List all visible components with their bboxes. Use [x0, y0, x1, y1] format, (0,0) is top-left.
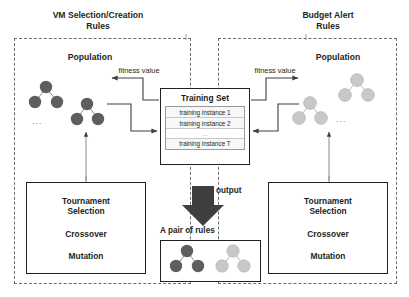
arrow-left-population-to-training [107, 104, 157, 131]
population-tree-left-2 [71, 98, 104, 125]
pair-rule-tree-light [216, 245, 250, 272]
population-tree-right-1 [339, 74, 375, 102]
arrow-right-training-to-fitness [251, 78, 298, 100]
arrow-right-population-to-training [253, 104, 299, 131]
population-tree-left-1 [29, 81, 63, 108]
output-block-arrow-icon [182, 186, 224, 226]
population-tree-right-2 [293, 97, 328, 125]
diagram-canvas: VM Selection/Creation Rules Budget Alert… [0, 0, 409, 297]
pair-rule-tree-dark [170, 245, 204, 272]
arrow-left-training-to-fitness [112, 78, 159, 100]
diagram-vector-layer [0, 0, 409, 297]
